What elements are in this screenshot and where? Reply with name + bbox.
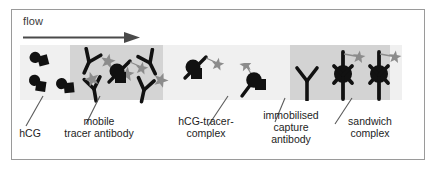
- flow-label: flow: [23, 15, 43, 27]
- hcg-tracer-complex: [100, 55, 150, 89]
- tracer-label-star-icon: [153, 72, 169, 88]
- tracer-label-star-icon: [84, 71, 100, 87]
- caption-immobilised-capture-antibody: immobilised capture antibody: [253, 109, 329, 145]
- caption-mobile-tracer-antibody: mobile tracer antibody: [54, 115, 144, 139]
- hcg-molecule: [28, 49, 54, 71]
- immunoassay-figure: flow: [0, 0, 436, 176]
- caption-hcg: hCG: [6, 127, 54, 139]
- caption-hcg-tracer-complex: hCG-tracer- complex: [160, 115, 252, 139]
- flow-arrow-icon: [22, 31, 144, 45]
- hcg-tracer-complex: [176, 51, 226, 85]
- caption-sandwich-complex: sandwich complex: [331, 115, 409, 139]
